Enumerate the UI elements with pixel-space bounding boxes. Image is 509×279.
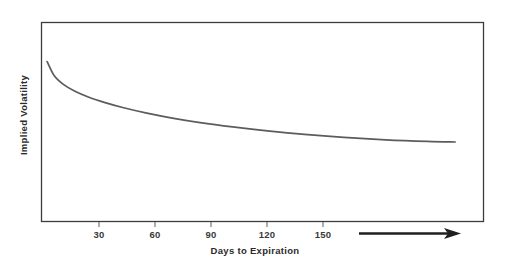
time-direction-arrow [359,228,461,239]
implied-volatility-chart: 30 60 90 120 150 Days to Expiration Impl… [0,0,509,279]
x-axis-tick-labels: 30 60 90 120 150 [94,229,332,240]
y-axis-title: Implied Volatility [18,74,29,155]
x-tick-label-3: 120 [259,229,275,240]
plot-frame [42,23,484,222]
x-axis-ticks [99,222,323,227]
x-tick-label-1: 60 [150,229,161,240]
x-tick-label-4: 150 [315,229,331,240]
x-axis-title: Days to Expiration [211,245,300,256]
chart-canvas: 30 60 90 120 150 Days to Expiration Impl… [0,0,509,279]
x-tick-label-2: 90 [206,229,217,240]
x-tick-label-0: 30 [94,229,105,240]
